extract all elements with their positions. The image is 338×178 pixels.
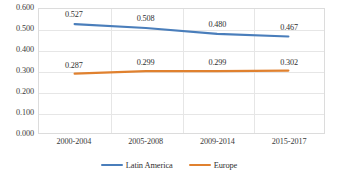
line-chart: 0.6000.5000.4000.3000.2000.1000.000 0.52… [0,0,338,178]
data-label: 0.287 [65,62,83,70]
legend-item-latin-america[interactable]: Latin America [101,161,173,170]
series-line-europe [75,71,289,74]
x-axis-tick-label: 2009-2014 [200,137,235,147]
data-label: 0.527 [65,11,83,19]
x-axis-tick-label: 2015-2017 [272,137,307,147]
legend-color-swatch [101,164,123,167]
data-label: 0.467 [280,24,298,32]
data-label: 0.302 [280,59,298,67]
y-axis-tick-label: 0.200 [0,88,34,96]
x-axis-tick-label: 2000-2004 [57,137,92,147]
y-axis-tick-label: 0.600 [0,4,34,12]
legend-item-europe[interactable]: Europe [189,161,238,170]
x-axis-tick-label: 2005-2008 [128,137,163,147]
y-axis-tick-label: 0.400 [0,46,34,54]
chart-legend: Latin AmericaEurope [0,158,338,172]
legend-label: Europe [214,161,238,170]
x-axis: 2000-20042005-20082009-20142015-2017 [38,137,325,151]
data-label: 0.508 [137,15,155,23]
y-axis-tick-label: 0.100 [0,109,34,117]
data-label: 0.299 [208,59,226,67]
y-axis: 0.6000.5000.4000.3000.2000.1000.000 [0,8,34,134]
data-label: 0.480 [208,21,226,29]
data-label: 0.299 [137,59,155,67]
series-line-latin-america [75,24,289,36]
legend-label: Latin America [126,161,173,170]
legend-color-swatch [189,164,211,167]
y-axis-tick-label: 0.500 [0,25,34,33]
y-axis-tick-label: 0.000 [0,130,34,138]
y-axis-tick-label: 0.300 [0,67,34,75]
